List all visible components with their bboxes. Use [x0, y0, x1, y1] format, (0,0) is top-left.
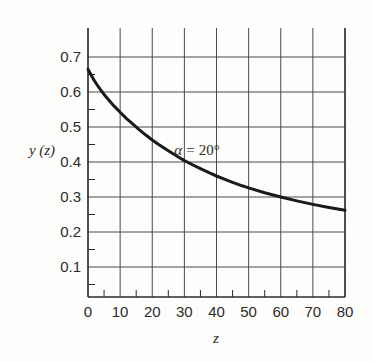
y-tick-label: 0.5 [60, 118, 81, 135]
y-tick-label: 0.7 [60, 48, 81, 65]
alpha-equals: = [186, 142, 194, 158]
x-axis-title: z [212, 330, 219, 346]
x-tick-label: 30 [176, 303, 193, 320]
x-tick-label: 60 [272, 303, 289, 320]
y-tick-label: 0.4 [60, 153, 81, 170]
x-tick-label: 50 [240, 303, 257, 320]
y-axis-title: y (z) [27, 142, 55, 159]
x-tick-label: 20 [144, 303, 161, 320]
x-tick-label: 10 [112, 303, 129, 320]
x-tick-label: 80 [337, 303, 354, 320]
y-tick-label: 0.2 [60, 223, 81, 240]
x-tick-label: 70 [305, 303, 322, 320]
x-tick-label: 0 [84, 303, 92, 320]
chart-figure: 0.10.20.30.40.50.60.7 01020304050607080 … [0, 0, 373, 362]
y-tick-label: 0.1 [60, 258, 81, 275]
y-tick-label: 0.3 [60, 188, 81, 205]
x-tick-label: 40 [208, 303, 225, 320]
alpha-symbol: α [174, 142, 183, 158]
alpha-value: 20° [199, 142, 220, 158]
x-axis-tick-labels: 01020304050607080 [84, 303, 354, 320]
chart-plot: 0.10.20.30.40.50.60.7 01020304050607080 … [0, 0, 373, 362]
y-tick-label: 0.6 [60, 83, 81, 100]
